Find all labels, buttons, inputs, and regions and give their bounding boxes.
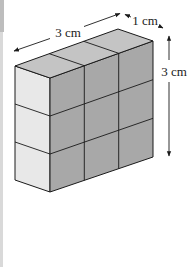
depth-label: 1 cm [132, 13, 158, 28]
depth-dimension: 1 cm [125, 13, 163, 28]
height-dimension: 3 cm [161, 36, 187, 156]
height-label: 3 cm [161, 64, 187, 79]
length-label: 3 cm [55, 25, 81, 40]
cuboid-diagram: 3 cm 1 cm 3 cm [0, 0, 193, 267]
cuboid-left-face [15, 66, 50, 192]
